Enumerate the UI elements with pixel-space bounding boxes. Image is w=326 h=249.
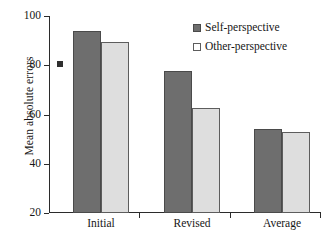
bar-initial-self: [73, 31, 101, 213]
bar-average-other: [282, 132, 310, 213]
legend-swatch-other-icon: [193, 43, 201, 51]
legend-item-self: Self-perspective: [193, 19, 287, 36]
x-label-initial: Initial: [61, 217, 141, 229]
error-marker-icon: [57, 61, 63, 67]
legend: Self-perspective Other-perspective: [193, 19, 287, 57]
y-tick-40: 40: [44, 164, 49, 165]
legend-label-other: Other-perspective: [205, 38, 287, 55]
legend-swatch-self-icon: [193, 24, 201, 32]
y-tick-label-60: 60: [30, 107, 42, 122]
legend-label-self: Self-perspective: [205, 19, 280, 36]
y-tick-label-100: 100: [24, 8, 41, 23]
y-tick-label-80: 80: [30, 57, 42, 72]
bar-revised-self: [164, 71, 192, 213]
y-tick-100: 100: [44, 16, 49, 17]
y-tick-label-40: 40: [30, 156, 42, 171]
y-axis-line: [49, 16, 50, 213]
legend-item-other: Other-perspective: [193, 38, 287, 55]
bar-revised-other: [192, 108, 220, 213]
y-tick-80: 80: [44, 65, 49, 66]
bar-average-self: [254, 129, 282, 213]
x-label-average: Average: [242, 217, 322, 229]
x-label-revised: Revised: [152, 217, 232, 229]
y-tick-20: 20: [44, 213, 49, 214]
y-tick-label-20: 20: [30, 205, 42, 220]
bar-chart: Mean absolute errors 100 80 60 40 20: [0, 0, 326, 249]
bar-initial-other: [101, 42, 129, 213]
y-tick-60: 60: [44, 115, 49, 116]
